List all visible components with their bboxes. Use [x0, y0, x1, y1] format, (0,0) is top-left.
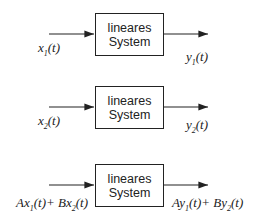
linear-system-block-1: lineares System	[95, 13, 164, 56]
block-line1: lineares	[108, 94, 152, 108]
output-label-3: Ay1(t)+ By2(t)	[172, 195, 243, 213]
input-label-2: x2(t)	[38, 113, 60, 131]
block-line1: lineares	[108, 172, 152, 186]
block-line2: System	[109, 186, 151, 200]
output-label-1: y1(t)	[186, 49, 208, 67]
linear-system-block-3: lineares System	[95, 164, 164, 207]
linear-system-block-2: lineares System	[95, 86, 164, 129]
output-label-2: y2(t)	[186, 117, 208, 135]
block-line1: lineares	[108, 21, 152, 35]
input-label-3: Ax1(t)+ Bx2(t)	[16, 195, 88, 213]
block-line2: System	[109, 35, 151, 49]
block-line2: System	[109, 108, 151, 122]
input-label-1: x1(t)	[38, 40, 60, 58]
